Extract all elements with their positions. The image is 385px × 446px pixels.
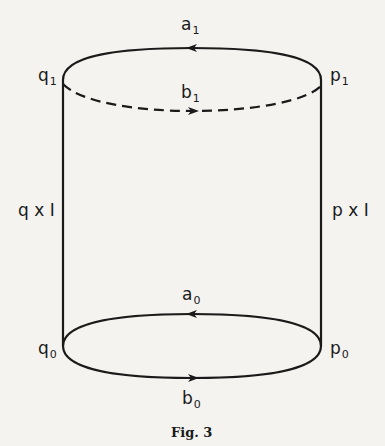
label-b1-sub: 1 bbox=[193, 92, 200, 105]
label-q1-sub: 1 bbox=[50, 75, 57, 88]
figure-caption: Fig. 3 bbox=[171, 425, 212, 440]
label-p1-sub: 1 bbox=[342, 75, 349, 88]
label-a1: a1 bbox=[181, 16, 199, 36]
cylinder-diagram bbox=[0, 0, 385, 446]
arc-a0 bbox=[63, 314, 321, 346]
label-q0-sub: 0 bbox=[50, 348, 57, 361]
label-b0: b0 bbox=[182, 390, 201, 410]
label-b0-base: b bbox=[182, 388, 193, 408]
arc-b0 bbox=[63, 346, 321, 378]
label-a0-sub: 0 bbox=[193, 294, 200, 307]
label-b0-sub: 0 bbox=[194, 398, 201, 411]
label-a0: a0 bbox=[182, 286, 200, 306]
label-b1-base: b bbox=[181, 82, 192, 102]
label-a0-base: a bbox=[182, 284, 192, 304]
label-p0-sub: 0 bbox=[342, 348, 349, 361]
label-q1: q1 bbox=[38, 67, 57, 87]
label-p1-base: p bbox=[330, 65, 341, 85]
label-p-x-i: p x I bbox=[332, 202, 369, 219]
label-q0-base: q bbox=[38, 338, 49, 358]
arc-a1 bbox=[63, 48, 321, 80]
label-q0: q0 bbox=[38, 340, 57, 360]
label-a1-base: a bbox=[181, 14, 191, 34]
label-a1-sub: 1 bbox=[192, 24, 199, 37]
label-p1: p1 bbox=[330, 67, 349, 87]
label-q-x-i: q x I bbox=[18, 202, 55, 219]
label-b1: b1 bbox=[181, 84, 200, 104]
label-p0-base: p bbox=[330, 338, 341, 358]
label-p0: p0 bbox=[330, 340, 349, 360]
label-q1-base: q bbox=[38, 65, 49, 85]
